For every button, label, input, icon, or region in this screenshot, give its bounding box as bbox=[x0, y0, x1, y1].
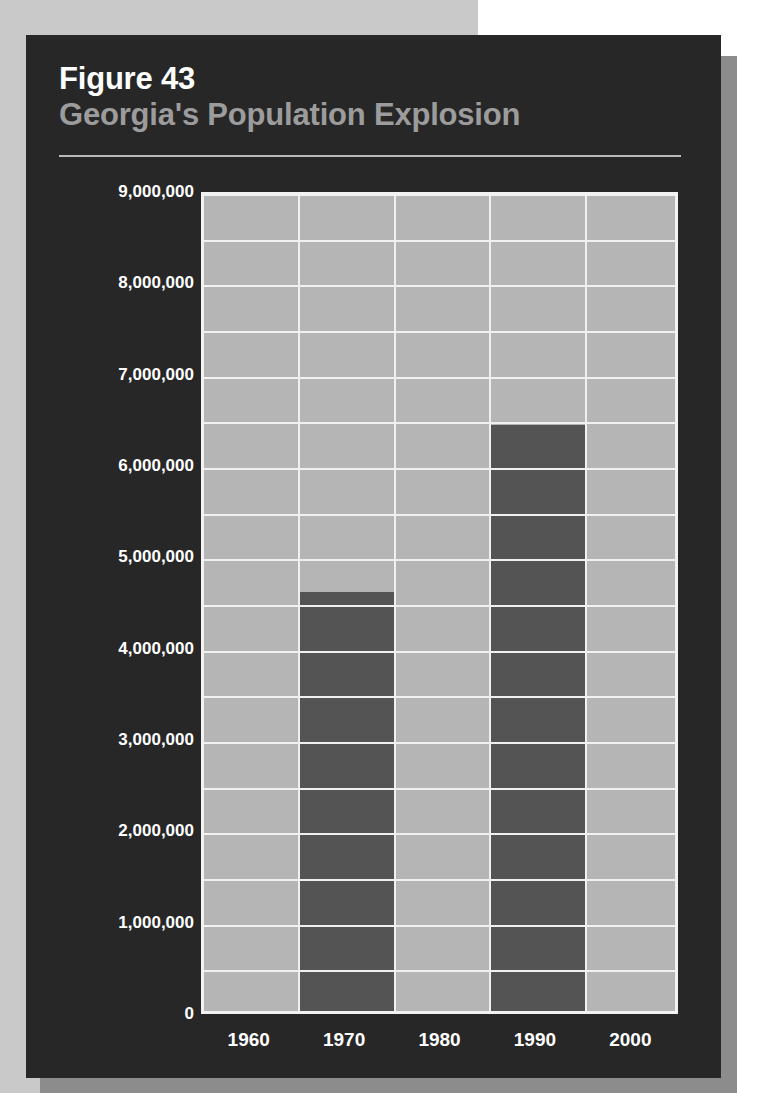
bar-1970[interactable] bbox=[299, 592, 394, 1011]
plot-inner bbox=[204, 195, 675, 1011]
y-axis-tick-label: 9,000,000 bbox=[26, 183, 194, 200]
x-axis-tick-label-2000: 2000 bbox=[583, 1027, 678, 1061]
y-axis-tick-label: 2,000,000 bbox=[26, 822, 194, 839]
x-axis-tick-label-1960: 1960 bbox=[201, 1027, 296, 1061]
bars-layer bbox=[204, 195, 675, 1011]
x-axis-tick-label-1980: 1980 bbox=[392, 1027, 487, 1061]
y-axis-tick-labels: 9,000,0008,000,0007,000,0006,000,0005,00… bbox=[26, 192, 194, 1014]
figure-panel: Figure 43 Georgia's Population Explosion… bbox=[26, 35, 721, 1078]
y-axis-tick-label: 5,000,000 bbox=[26, 548, 194, 565]
y-axis-tick-label: 1,000,000 bbox=[26, 914, 194, 931]
y-axis-tick-label: 7,000,000 bbox=[26, 366, 194, 383]
y-axis-tick-label: 4,000,000 bbox=[26, 640, 194, 657]
y-axis-tick-label: 3,000,000 bbox=[26, 731, 194, 748]
x-axis-tick-labels: 19601970198019902000 bbox=[201, 1027, 678, 1061]
bar-1990[interactable] bbox=[490, 425, 585, 1011]
chart-region: 9,000,0008,000,0007,000,0006,000,0005,00… bbox=[26, 35, 721, 1078]
x-axis-tick-label-1990: 1990 bbox=[487, 1027, 582, 1061]
y-axis-tick-label: 8,000,000 bbox=[26, 274, 194, 291]
plot-area bbox=[201, 192, 678, 1014]
y-axis-tick-label: 6,000,000 bbox=[26, 457, 194, 474]
y-axis-tick-label: 0 bbox=[26, 1005, 194, 1022]
x-axis-tick-label-1970: 1970 bbox=[296, 1027, 391, 1061]
